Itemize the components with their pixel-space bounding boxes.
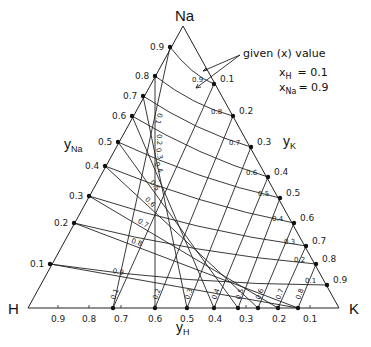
grid-dot xyxy=(231,114,235,118)
annotation-xna: xNa= 0.9 xyxy=(279,81,329,96)
grid-dot xyxy=(292,221,296,225)
bottom-tick-label: 0.4 xyxy=(208,314,223,324)
bottom-tick-label: 0.9 xyxy=(51,314,66,324)
grid-dot xyxy=(276,306,280,310)
curve-label: 0.4 xyxy=(272,215,284,223)
curve-label: 0.5 xyxy=(258,190,269,198)
right-tick-label: 0.9 xyxy=(333,275,348,285)
diagonal-label: 0.7 xyxy=(136,217,150,230)
xh-curve xyxy=(132,116,268,177)
bottom-tick-label: 0.6 xyxy=(148,314,163,324)
grid-dot xyxy=(168,45,172,49)
bottom-tick-label: 0.8 xyxy=(82,314,97,324)
right-tick-label: 0.1 xyxy=(220,74,234,84)
grid-dot xyxy=(141,94,145,98)
diagonal-label: 0.4 xyxy=(153,161,165,175)
curve-label: 0.9 xyxy=(192,76,203,84)
bottom-tick-label: 0.7 xyxy=(114,314,128,324)
diagonal-label: 0.2 xyxy=(155,134,163,145)
bottom-tick-label: 0.3 xyxy=(239,314,253,324)
diagonal-label: 0.5 xyxy=(148,179,161,193)
base-line xyxy=(298,264,316,308)
axis-label-yna: yNa xyxy=(64,136,83,154)
grid-dot xyxy=(256,306,260,310)
base-line-label: 0.1 xyxy=(109,287,120,300)
axis-label-yk: yK xyxy=(283,133,296,151)
grid-dot xyxy=(48,262,52,266)
left-tick-label: 0.8 xyxy=(135,71,150,81)
curve-label: 0.1 xyxy=(305,277,316,285)
grid-dot xyxy=(111,306,115,310)
base-line-label: 0.2 xyxy=(151,287,162,300)
grid-dot xyxy=(153,74,157,78)
grid-dot xyxy=(103,164,107,168)
base-line-label: 0.4 xyxy=(210,287,222,301)
xh-curve xyxy=(50,264,327,285)
triangle-outline xyxy=(28,26,339,308)
curve-label: 0.2 xyxy=(294,256,305,264)
left-tick-label: 0.4 xyxy=(85,161,100,171)
grid-dot xyxy=(304,244,308,248)
grid-dot xyxy=(236,306,240,310)
right-tick-label: 0.5 xyxy=(286,188,300,198)
vertex-k-label: K xyxy=(349,300,359,317)
grid-dot xyxy=(314,262,318,266)
left-tick-label: 0.1 xyxy=(30,259,44,269)
curve-label: 0.3 xyxy=(284,238,295,246)
base-line-label: 0.7 xyxy=(274,287,285,300)
right-tick-label: 0.4 xyxy=(274,167,289,177)
right-tick-label: 0.8 xyxy=(322,254,337,264)
grid-dot xyxy=(296,306,300,310)
right-tick-label: 0.7 xyxy=(312,236,326,246)
grid-dot xyxy=(212,82,216,86)
left-tick-label: 0.6 xyxy=(112,111,127,121)
right-tick-label: 0.2 xyxy=(239,106,253,116)
grid-dot xyxy=(72,221,76,225)
left-tick-label: 0.3 xyxy=(69,191,83,201)
grid-dot xyxy=(130,114,134,118)
grid-points xyxy=(48,45,329,310)
curve-label: 0.7 xyxy=(229,139,240,147)
curve-label: 0.8 xyxy=(211,108,222,116)
grid-dot xyxy=(325,283,329,287)
grid-dot xyxy=(116,140,120,144)
vertex-na-label: Na xyxy=(175,7,195,24)
base-line xyxy=(187,147,251,308)
left-tick-label: 0.7 xyxy=(123,91,137,101)
grid-dot xyxy=(278,196,282,200)
curve-label: 0.6 xyxy=(246,169,258,177)
base-line-label: 0.6 xyxy=(254,287,266,301)
right-tick-label: 0.3 xyxy=(257,137,271,147)
vertex-h-label: H xyxy=(8,300,19,317)
grid-dot xyxy=(212,306,216,310)
grid-dot xyxy=(249,145,253,149)
given-value-annotation: given (x) value xH= 0.1 xNa= 0.9 xyxy=(196,47,329,96)
left-tick-label: 0.9 xyxy=(150,42,165,52)
left-tick-label: 0.5 xyxy=(98,137,112,147)
bottom-tick-label: 0.2 xyxy=(272,314,286,324)
xna-diagonal xyxy=(132,116,214,308)
left-tick-label: 0.2 xyxy=(54,218,68,228)
bottom-tick-label: 0.1 xyxy=(303,314,317,324)
annotation-title: given (x) value xyxy=(243,47,326,60)
base-line-label: 0.8 xyxy=(294,287,305,300)
annotation-xh: xH= 0.1 xyxy=(279,66,328,81)
grid-dot xyxy=(266,175,270,179)
ternary-diagram: 0.90.80.70.60.50.40.30.20.10.10.20.30.40… xyxy=(0,0,371,347)
grid-dot xyxy=(87,194,91,198)
right-tick-label: 0.6 xyxy=(300,213,315,223)
